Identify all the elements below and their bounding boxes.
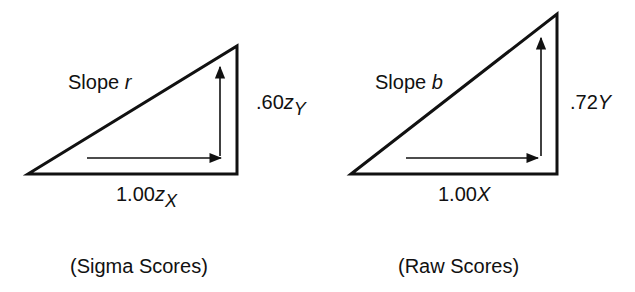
slope-symbol: b: [432, 71, 443, 93]
raw-rise-label: .72Y: [570, 92, 611, 112]
diagram-canvas: [0, 0, 635, 292]
sigma-run-label: 1.00zX: [116, 184, 177, 204]
slope-prefix: Slope: [68, 71, 125, 93]
raw-caption: (Raw Scores): [398, 256, 519, 276]
run-value: 1.00: [116, 183, 155, 205]
rise-var: Y: [598, 91, 611, 113]
sigma-triangle: [28, 46, 237, 174]
raw-slope-label: Slope b: [375, 72, 443, 92]
run-var: X: [477, 183, 490, 205]
sigma-slope-label: Slope r: [68, 72, 131, 92]
rise-value: .72: [570, 91, 598, 113]
raw-triangle: [351, 14, 557, 174]
run-value: 1.00: [438, 183, 477, 205]
rise-value: .60: [256, 91, 284, 113]
raw-run-label: 1.00X: [438, 184, 490, 204]
slope-prefix: Slope: [375, 71, 432, 93]
rise-subscript: Y: [294, 99, 306, 119]
run-subscript: X: [165, 191, 177, 211]
sigma-caption: (Sigma Scores): [70, 256, 208, 276]
run-var: z: [155, 183, 165, 205]
rise-var: z: [284, 91, 294, 113]
sigma-rise-label: .60zY: [256, 92, 306, 112]
slope-symbol: r: [125, 71, 132, 93]
